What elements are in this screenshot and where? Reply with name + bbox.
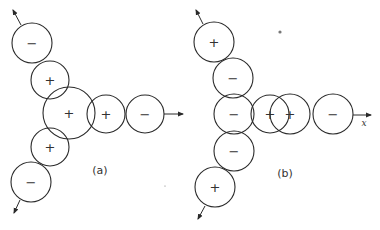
speck — [278, 30, 281, 33]
arrow-icon — [196, 10, 203, 24]
minus-sign: − — [229, 107, 240, 122]
speck — [164, 185, 165, 186]
minus-sign: − — [229, 144, 240, 159]
minus-sign: − — [26, 175, 37, 190]
charge-circle: − — [313, 94, 353, 134]
charge-circle: − — [126, 95, 164, 133]
charge-circle: + — [194, 22, 234, 62]
arrow-icon — [198, 206, 205, 219]
charge-circle: + — [195, 167, 235, 207]
arrow-icon — [13, 10, 21, 25]
panel-a: −+++−+−(a) — [11, 10, 183, 213]
panel-label: (a) — [92, 164, 107, 177]
charge-circle: + — [31, 61, 69, 99]
charge-circle: + — [31, 128, 69, 166]
minus-sign: − — [328, 107, 339, 122]
plus-sign: + — [210, 180, 221, 195]
plus-sign: + — [101, 107, 112, 122]
charge-circle: − — [11, 162, 51, 202]
charge-circle: − — [213, 58, 253, 98]
minus-sign: − — [228, 71, 239, 86]
charge-distribution-diagram: −+++−+−(a) +−−++−−+(b)x — [0, 0, 380, 230]
plus-sign: + — [209, 35, 220, 50]
charge-circle: − — [214, 131, 254, 171]
arrow-icon — [14, 200, 20, 213]
minus-sign: − — [27, 36, 38, 51]
x-axis-label: x — [361, 118, 366, 128]
plus-sign: + — [45, 140, 56, 155]
charge-circle: − — [214, 94, 254, 134]
charge-circle: − — [12, 23, 52, 63]
plus-sign: + — [285, 107, 296, 122]
plus-sign: + — [64, 106, 75, 121]
minus-sign: − — [140, 107, 151, 122]
panel-b: +−−++−−+(b)x — [194, 10, 371, 219]
plus-sign: + — [45, 73, 56, 88]
charge-circle: + — [270, 94, 310, 134]
charge-circle: + — [87, 95, 125, 133]
panel-label: (b) — [277, 167, 293, 180]
